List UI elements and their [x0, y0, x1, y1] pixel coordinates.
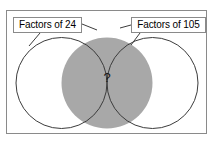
right-set-label: Factors of 105	[131, 17, 206, 33]
left-set-label-text: Factors of 24	[19, 20, 76, 30]
diagram-canvas: Factors of 24 Factors of 105 ?	[0, 0, 213, 147]
right-set-label-text: Factors of 105	[137, 20, 200, 30]
left-set-label: Factors of 24	[13, 17, 82, 33]
intersection-question-mark: ?	[100, 69, 114, 85]
